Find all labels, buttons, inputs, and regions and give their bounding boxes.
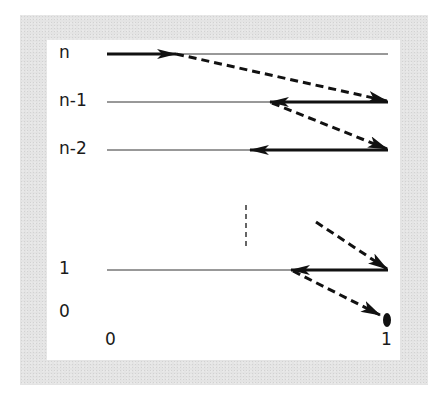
solid-arrows — [107, 54, 388, 270]
label-level-1: 1 — [59, 260, 70, 277]
dashed-n-to-n-1 — [176, 54, 387, 101]
dashed-1-to-0 — [293, 271, 380, 315]
label-level-n-1: n-1 — [59, 92, 87, 109]
dashed-n-1-to-n-2 — [272, 103, 387, 149]
label-x-1: 1 — [381, 331, 392, 348]
label-level-0: 0 — [59, 303, 70, 320]
dashed-ellipsis-to-1 — [316, 222, 387, 269]
label-level-n: n — [59, 44, 70, 61]
dashed-transitions — [176, 54, 387, 315]
level-lines — [107, 54, 388, 270]
label-x-0: 0 — [105, 331, 116, 348]
terminal-dot — [383, 313, 391, 327]
label-level-n-2: n-2 — [59, 140, 87, 157]
